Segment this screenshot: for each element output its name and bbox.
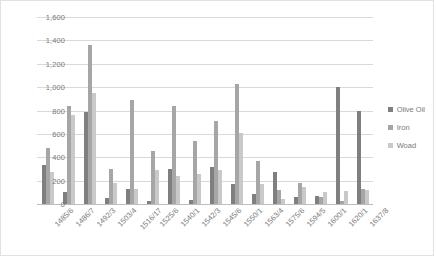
- bar: [302, 187, 306, 204]
- x-axis-tick-label: 1516/17: [137, 206, 163, 232]
- bar-group: [79, 17, 100, 204]
- bar: [239, 133, 243, 204]
- y-axis-tick-label: 1,400: [31, 36, 65, 45]
- bar: [113, 183, 117, 204]
- x-axis-tick-label: 1492/3: [94, 206, 117, 229]
- x-axis-tick-label: 1503/4: [115, 206, 138, 229]
- x-axis-tick-label: 1550/1: [241, 206, 264, 229]
- x-axis-tick-label: 1545/6: [220, 206, 243, 229]
- legend-item[interactable]: Olive Oil: [388, 105, 425, 114]
- bar: [155, 170, 159, 204]
- bar: [260, 184, 264, 204]
- y-axis-tick-label: 400: [31, 153, 65, 162]
- bar-group: [142, 17, 163, 204]
- x-axis-tick-label: 1540/1: [178, 206, 201, 229]
- bar-group: [100, 17, 121, 204]
- bar-group: [121, 17, 142, 204]
- x-axis-tick-label: 1575/6: [283, 206, 306, 229]
- bar-group: [247, 17, 268, 204]
- x-axis-tick-label: 1486/7: [73, 206, 96, 229]
- bar-series-container: [37, 17, 373, 204]
- bar: [281, 199, 285, 204]
- x-axis-tick-label: 1620/1: [346, 206, 369, 229]
- bar: [336, 87, 340, 204]
- legend-item[interactable]: Woad: [388, 141, 425, 150]
- x-axis-tick-label: 1600/1: [325, 206, 348, 229]
- y-axis-tick-label: 1,200: [31, 59, 65, 68]
- chart-legend: Olive OilIronWoad: [388, 105, 425, 150]
- y-axis-tick-label: 800: [31, 106, 65, 115]
- x-axis-tick-label: 1542/3: [199, 206, 222, 229]
- legend-swatch-icon: [388, 107, 393, 112]
- bar-group: [331, 17, 352, 204]
- bar: [92, 93, 96, 204]
- bar: [218, 170, 222, 204]
- legend-swatch-icon: [388, 125, 393, 130]
- bar-group: [310, 17, 331, 204]
- gridline: [37, 204, 373, 205]
- legend-label: Olive Oil: [397, 105, 425, 114]
- x-axis-tick-label: 1637/8: [367, 206, 390, 229]
- bar-group: [352, 17, 373, 204]
- x-axis-labels: 1485/61486/71492/31503/41516/171525/6154…: [37, 206, 373, 256]
- bar-group: [184, 17, 205, 204]
- y-axis-tick-label: 0: [31, 200, 65, 209]
- bar-chart: 1485/61486/71492/31503/41516/171525/6154…: [0, 0, 434, 256]
- bar-group: [268, 17, 289, 204]
- legend-label: Iron: [397, 123, 410, 132]
- y-axis-tick-label: 1,600: [31, 13, 65, 22]
- bar: [365, 190, 369, 204]
- bar: [176, 176, 180, 204]
- bar-group: [226, 17, 247, 204]
- x-axis-tick-label: 1485/6: [52, 206, 75, 229]
- y-axis-tick-label: 200: [31, 176, 65, 185]
- legend-item[interactable]: Iron: [388, 123, 425, 132]
- x-axis-tick-label: 1594/5: [304, 206, 327, 229]
- legend-swatch-icon: [388, 143, 393, 148]
- bar: [197, 174, 201, 204]
- bar-group: [205, 17, 226, 204]
- y-axis-tick-label: 600: [31, 129, 65, 138]
- bar: [344, 191, 348, 204]
- x-axis-tick-label: 1563/4: [262, 206, 285, 229]
- legend-label: Woad: [397, 141, 416, 150]
- y-axis-tick-label: 1,000: [31, 83, 65, 92]
- bar-group: [163, 17, 184, 204]
- plot-area: [37, 17, 373, 204]
- bar-group: [289, 17, 310, 204]
- bar: [71, 115, 75, 204]
- bar: [134, 189, 138, 204]
- bar: [323, 192, 327, 204]
